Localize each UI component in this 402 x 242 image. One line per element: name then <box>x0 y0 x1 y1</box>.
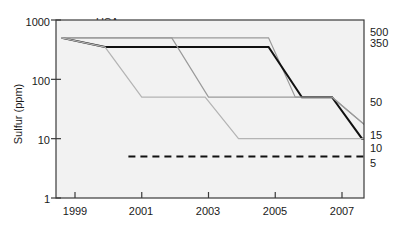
sulfur-limits-chart: Sulfur (ppm) 1000 100 10 1 500 350 50 15… <box>0 0 402 242</box>
plot-canvas <box>0 0 402 242</box>
